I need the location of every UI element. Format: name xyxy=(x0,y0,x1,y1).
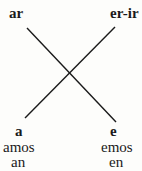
label-en: en xyxy=(109,155,123,170)
label-ar: ar xyxy=(9,6,23,21)
label-e: e xyxy=(110,124,117,139)
label-emos: emos xyxy=(101,140,133,155)
line-ar-to-e xyxy=(27,28,116,122)
label-er-ir: er-ir xyxy=(110,6,139,21)
label-amos: amos xyxy=(3,140,35,155)
label-an: an xyxy=(11,155,25,170)
label-a: a xyxy=(15,124,23,139)
